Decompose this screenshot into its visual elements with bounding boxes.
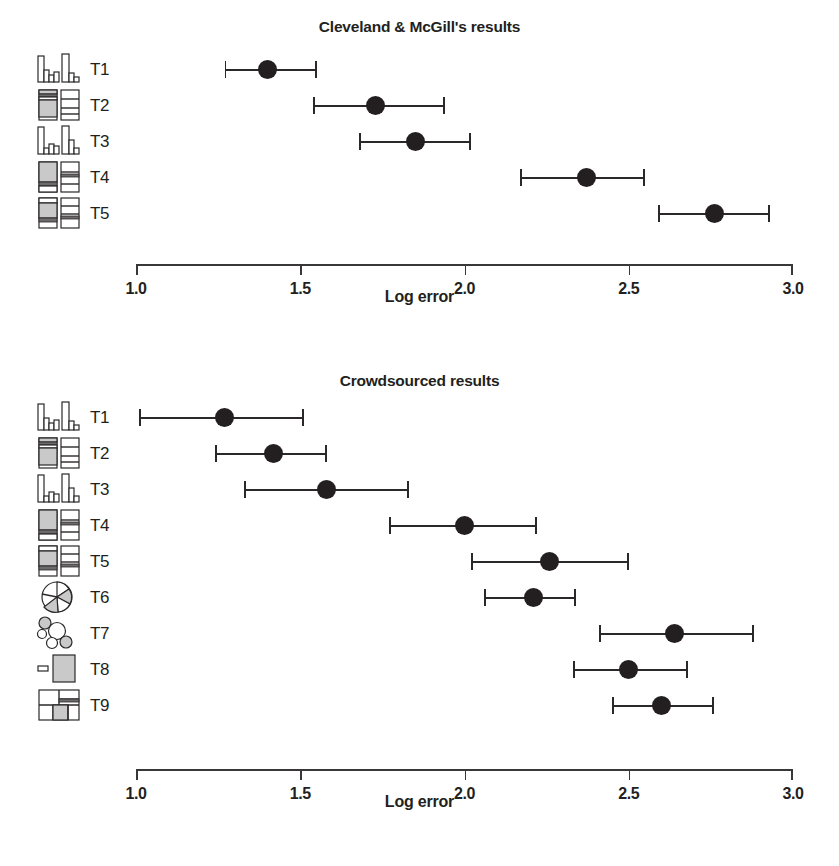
- row-plot-area: [0, 88, 839, 124]
- data-point: [652, 696, 671, 715]
- data-point: [366, 96, 385, 115]
- error-bar-cap-low: [612, 697, 614, 714]
- row-plot-area: [0, 508, 839, 544]
- error-bar-cap-high: [643, 169, 645, 186]
- data-point: [317, 480, 336, 499]
- error-bar-cap-low: [359, 133, 361, 150]
- axis-tick: [791, 769, 793, 780]
- error-bar-cap-high: [768, 205, 770, 222]
- x-axis-title-top: Log error: [0, 288, 839, 306]
- row-plot-area: [0, 544, 839, 580]
- chart-row: T3: [0, 124, 839, 160]
- error-bar-cap-high: [407, 481, 409, 498]
- axis-tick: [791, 264, 793, 275]
- error-bar-cap-high: [686, 661, 688, 678]
- chart-panel-cleveland-mcgill: Cleveland & McGill's results T1T2T3T4T5 …: [0, 0, 839, 360]
- axis-tick: [465, 264, 467, 275]
- error-bar-cap-low: [389, 517, 391, 534]
- row-plot-area: [0, 196, 839, 232]
- error-bar-cap-high: [315, 61, 317, 78]
- chart-row: T6: [0, 580, 839, 616]
- error-bar-cap-low: [139, 409, 141, 426]
- row-plot-area: [0, 400, 839, 436]
- data-point: [577, 168, 596, 187]
- chart-row: T5: [0, 544, 839, 580]
- x-axis-title-bottom: Log error: [0, 793, 839, 811]
- data-point: [705, 204, 724, 223]
- row-plot-area: [0, 124, 839, 160]
- error-bar-cap-high: [325, 445, 327, 462]
- chart-row: T2: [0, 436, 839, 472]
- row-plot-area: [0, 580, 839, 616]
- chart-row: T5: [0, 196, 839, 232]
- data-point: [540, 552, 559, 571]
- axis-tick: [465, 769, 467, 780]
- error-bar-cap-high: [469, 133, 471, 150]
- row-plot-area: [0, 688, 839, 724]
- error-bar-cap-high: [627, 553, 629, 570]
- chart-row: T4: [0, 508, 839, 544]
- data-point: [455, 516, 474, 535]
- axis-tick: [136, 264, 138, 275]
- error-bar-cap-high: [535, 517, 537, 534]
- chart-row: T7: [0, 616, 839, 652]
- chart-row: T1: [0, 400, 839, 436]
- error-bar-cap-high: [712, 697, 714, 714]
- row-plot-area: [0, 52, 839, 88]
- row-plot-area: [0, 160, 839, 196]
- chart-row: T2: [0, 88, 839, 124]
- data-point: [264, 444, 283, 463]
- row-plot-area: [0, 436, 839, 472]
- chart-row: T4: [0, 160, 839, 196]
- data-point: [619, 660, 638, 679]
- data-point: [665, 624, 684, 643]
- axis-tick: [300, 264, 302, 275]
- axis-tick: [300, 769, 302, 780]
- data-point: [524, 588, 543, 607]
- error-bar-cap-low: [215, 445, 217, 462]
- chart-row: T1: [0, 52, 839, 88]
- error-bar-cap-low: [573, 661, 575, 678]
- axis-tick: [629, 264, 631, 275]
- chart-row: T8: [0, 652, 839, 688]
- data-point: [215, 408, 234, 427]
- chart-row: T3: [0, 472, 839, 508]
- chart-row: T9: [0, 688, 839, 724]
- error-bar-cap-low: [244, 481, 246, 498]
- error-bar-cap-low: [313, 97, 315, 114]
- error-bar-cap-low: [471, 553, 473, 570]
- error-bar-cap-low: [658, 205, 660, 222]
- error-bar-cap-high: [752, 625, 754, 642]
- axis-tick: [629, 769, 631, 780]
- error-bar-cap-high: [443, 97, 445, 114]
- error-bar-cap-low: [599, 625, 601, 642]
- chart-panel-crowdsourced: Crowdsourced results T1T2T3T4T5T6T7T8T9 …: [0, 360, 839, 866]
- data-point: [258, 60, 277, 79]
- row-plot-area: [0, 652, 839, 688]
- error-bar-cap-high: [302, 409, 304, 426]
- error-bar-cap-high: [574, 589, 576, 606]
- row-plot-area: [0, 472, 839, 508]
- axis-tick: [136, 769, 138, 780]
- row-plot-area: [0, 616, 839, 652]
- error-bar-cap-low: [225, 61, 227, 78]
- data-point: [406, 132, 425, 151]
- error-bar-cap-low: [520, 169, 522, 186]
- error-bar-cap-low: [484, 589, 486, 606]
